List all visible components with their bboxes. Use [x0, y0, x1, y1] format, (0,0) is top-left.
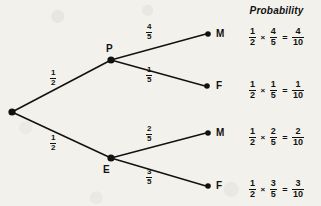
probability-row-p-m-first-fraction: 1 2 — [249, 27, 256, 47]
probability-row-p-m-result-numerator: 4 — [292, 27, 304, 37]
probability-row-e-f: 1 2 × 3 5 = 3 10 — [232, 180, 321, 200]
endpoint-label-f2: F — [216, 181, 222, 191]
probability-row-p-m-result-denominator: 10 — [292, 38, 304, 47]
probability-row-p-f-second-numerator: 1 — [270, 80, 277, 90]
probability-row-p-m-first-denominator: 2 — [249, 38, 256, 47]
branch-fraction-p-to-f-denominator: 5 — [146, 76, 152, 84]
probability-row-p-f-first-numerator: 1 — [249, 80, 256, 90]
probability-row-p-f-first-denominator: 2 — [249, 91, 256, 100]
branch-fraction-root-to-p-denominator: 2 — [50, 79, 56, 87]
branch-fraction-e-to-m-denominator: 5 — [146, 135, 152, 143]
probability-row-p-f-result-numerator: 1 — [292, 80, 304, 90]
probability-row-e-f-second-denominator: 5 — [270, 190, 277, 199]
probability-row-e-m-result-denominator: 10 — [292, 138, 304, 147]
probability-row-e-m-second-fraction: 2 5 — [270, 127, 277, 147]
probability-row-p-m-second-fraction: 4 5 — [270, 27, 277, 47]
probability-row-p-f-second-fraction: 1 5 — [270, 80, 277, 100]
probability-column-header: Probability — [232, 5, 321, 16]
probability-row-e-m-first-fraction: 1 2 — [249, 127, 256, 147]
probability-column: Probability 1 2 × 4 5 = 4 10 1 2 × 1 5 =… — [232, 0, 321, 206]
probability-row-e-m-result-numerator: 2 — [292, 127, 304, 137]
probability-row-p-m: 1 2 × 4 5 = 4 10 — [232, 28, 321, 48]
probability-row-p-m-second-denominator: 5 — [270, 38, 277, 47]
probability-row-e-f-result-denominator: 10 — [292, 190, 304, 199]
probability-row-p-f-result-denominator: 10 — [292, 91, 304, 100]
branch-fraction-e-to-f: 3 5 — [146, 169, 152, 187]
multiply-icon: × — [259, 86, 268, 95]
endpoint-label-m1: M — [216, 29, 224, 39]
probability-row-p-f-result-fraction: 1 10 — [292, 80, 304, 100]
multiply-icon: × — [259, 133, 268, 142]
branch-fraction-root-to-p: 1 2 — [50, 70, 56, 88]
branch-fraction-p-to-m-denominator: 5 — [146, 33, 152, 41]
equals-icon: = — [279, 185, 289, 195]
probability-row-e-m: 1 2 × 2 5 = 2 10 — [232, 128, 321, 148]
probability-row-p-f: 1 2 × 1 5 = 1 10 — [232, 81, 321, 101]
probability-row-p-m-second-numerator: 4 — [270, 27, 277, 37]
endpoint-label-m2: M — [216, 128, 224, 138]
equals-icon: = — [279, 33, 289, 43]
probability-row-e-m-second-numerator: 2 — [270, 127, 277, 137]
node-label-e: E — [103, 165, 110, 175]
probability-row-e-f-first-denominator: 2 — [249, 190, 256, 199]
probability-row-e-f-first-numerator: 1 — [249, 179, 256, 189]
branch-fraction-e-to-m: 2 5 — [146, 126, 152, 144]
equals-icon: = — [279, 86, 289, 96]
probability-row-e-f-result-fraction: 3 10 — [292, 179, 304, 199]
probability-row-e-m-result-fraction: 2 10 — [292, 127, 304, 147]
probability-row-e-f-second-numerator: 3 — [270, 179, 277, 189]
branch-fraction-p-to-f: 1 5 — [146, 67, 152, 85]
probability-row-p-m-first-numerator: 1 — [249, 27, 256, 37]
probability-row-e-f-first-fraction: 1 2 — [249, 179, 256, 199]
probability-row-e-m-first-denominator: 2 — [249, 138, 256, 147]
branch-fraction-root-to-e: 1 2 — [50, 135, 56, 153]
equals-icon: = — [279, 133, 289, 143]
probability-row-e-f-result-numerator: 3 — [292, 179, 304, 189]
node-label-p: P — [106, 44, 113, 54]
multiply-icon: × — [259, 33, 268, 42]
probability-row-p-m-result-fraction: 4 10 — [292, 27, 304, 47]
branch-fraction-root-to-e-denominator: 2 — [50, 144, 56, 152]
probability-row-p-f-first-fraction: 1 2 — [249, 80, 256, 100]
endpoint-label-f1: F — [216, 81, 222, 91]
branch-fraction-p-to-m: 4 5 — [146, 24, 152, 42]
multiply-icon: × — [259, 185, 268, 194]
probability-row-e-f-second-fraction: 3 5 — [270, 179, 277, 199]
probability-row-e-m-second-denominator: 5 — [270, 138, 277, 147]
probability-row-e-m-first-numerator: 1 — [249, 127, 256, 137]
branch-fraction-e-to-f-denominator: 5 — [146, 178, 152, 186]
probability-row-p-f-second-denominator: 5 — [270, 91, 277, 100]
